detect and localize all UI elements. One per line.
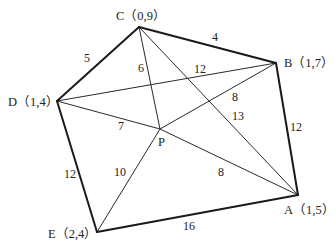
edge-p-e	[97, 129, 160, 232]
weight-d-c: 5	[84, 51, 90, 65]
weight-c-p: 6	[138, 61, 144, 75]
weight-a-e: 16	[183, 219, 195, 233]
edge-c-b	[139, 27, 276, 63]
vertex-label-e: E（2,4）	[48, 227, 97, 241]
graph-diagram: 612138781041216125 C（0,9）B（1,7）D（1,4）PE（…	[0, 0, 335, 248]
vertex-label-c: C（0,9）	[116, 9, 166, 23]
edge-d-c	[57, 27, 139, 101]
weight-b-a: 12	[290, 120, 302, 134]
weight-p-b: 8	[232, 90, 238, 104]
weight-c-b: 4	[212, 30, 218, 44]
edge-c-p	[139, 27, 160, 129]
vertex-label-p: P	[158, 135, 165, 149]
weight-p-e: 10	[114, 165, 126, 179]
edge-p-a	[160, 129, 298, 195]
edge-d-p	[57, 101, 160, 129]
vertex-label-b: B（1,7）	[284, 56, 334, 70]
weight-e-d: 12	[64, 167, 76, 181]
weight-c-a: 13	[232, 109, 244, 123]
vertex-label-a: A（1,5）	[284, 203, 335, 217]
weight-p-a: 8	[218, 165, 224, 179]
vertex-label-d: D（1,4）	[8, 95, 59, 109]
weight-d-p: 7	[118, 119, 124, 133]
weight-d-b: 12	[194, 62, 206, 76]
edge-e-d	[57, 101, 97, 232]
edge-a-e	[97, 195, 298, 232]
edges-group	[57, 27, 298, 232]
